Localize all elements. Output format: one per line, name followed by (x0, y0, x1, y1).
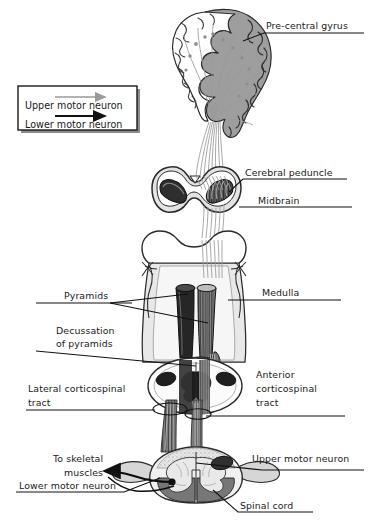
label-anterior-tract-line3: tract (256, 397, 279, 408)
pyramid-right-cap (197, 284, 216, 291)
label-midbrain-text: Midbrain (258, 195, 300, 206)
label-medulla[interactable]: Medulla (228, 287, 341, 300)
anterior-tract-descending (191, 400, 202, 452)
label-upper-motor-neuron-text: Upper motor neuron (252, 453, 349, 464)
label-spinal-cord-text: Spinal cord (240, 500, 293, 511)
label-cerebral-peduncle[interactable]: Cerebral peduncle (229, 167, 347, 192)
label-medulla-text: Medulla (262, 287, 299, 298)
label-lateral-tract-line2: tract (28, 397, 51, 408)
label-midbrain[interactable]: Midbrain (239, 195, 352, 207)
label-anterior-tract-line2: corticospinal (256, 383, 317, 394)
label-lower-motor-neuron-text: Lower motor neuron (19, 480, 116, 491)
label-decussation-line2: of pyramids (56, 338, 113, 349)
figure-canvas: Upper motor neuron Lower motor neuron Pr… (0, 0, 370, 531)
label-cerebral-peduncle-text: Cerebral peduncle (245, 167, 333, 178)
label-to-skeletal-line1: To skeletal (52, 453, 103, 464)
label-to-skeletal-muscles[interactable]: To skeletal muscles (52, 453, 103, 478)
label-lateral-tract-line1: Lateral corticospinal (28, 383, 125, 394)
legend-label-lower-motor-neuron: Lower motor neuron (25, 119, 122, 130)
spinal-nerve-root-right (238, 462, 279, 483)
label-decussation-line1: Decussation (56, 325, 115, 336)
lateral-tract-descending (161, 400, 177, 452)
legend-label-upper-motor-neuron: Upper motor neuron (25, 100, 123, 111)
label-to-skeletal-line2: muscles (64, 467, 103, 478)
cerebral-cortex-group (173, 9, 272, 137)
corticospinal-tract-diagram: Upper motor neuron Lower motor neuron Pr… (0, 0, 370, 531)
pyramid-left-cap (176, 284, 195, 291)
label-pyramids-text: Pyramids (64, 290, 108, 301)
label-lateral-corticospinal-tract[interactable]: Lateral corticospinal tract (26, 383, 155, 410)
pons-outline (142, 231, 246, 265)
motor-neuron-legend[interactable]: Upper motor neuron Lower motor neuron (18, 86, 140, 133)
label-pre-central-gyrus-text: Pre-central gyrus (266, 20, 348, 31)
label-anterior-tract-line1: Anterior (256, 369, 295, 380)
